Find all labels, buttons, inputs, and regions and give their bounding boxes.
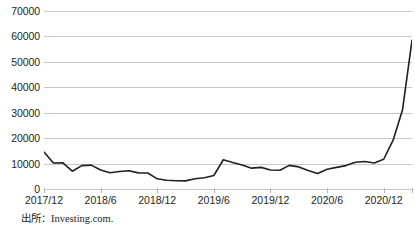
x-axis-end-tick (44, 188, 45, 193)
series-polyline (44, 40, 412, 181)
y-tick-label: 20000 (11, 133, 40, 144)
y-tick-label: 60000 (11, 31, 40, 42)
x-axis-ticks (44, 188, 412, 193)
y-tick-label: 50000 (11, 57, 40, 68)
plot-area (44, 11, 412, 189)
x-tick-label: 2018/12 (138, 194, 176, 207)
y-tick-label: 30000 (11, 107, 40, 118)
x-tick-label: 2019/6 (198, 194, 230, 207)
y-tick-label: 0 (34, 184, 40, 195)
x-tick-label: 2020/12 (365, 194, 403, 207)
x-tick (101, 188, 102, 193)
x-tick-label: 2019/12 (251, 194, 289, 207)
x-tick (384, 188, 385, 193)
x-tick (327, 188, 328, 193)
x-axis: 2017/122018/62018/122019/62019/122020/62… (0, 194, 415, 210)
x-tick-label: 2020/6 (311, 194, 343, 207)
line-series-bitcoin (44, 11, 412, 189)
source-note: 出所：Investing.com. (21, 213, 113, 226)
y-tick-label: 40000 (11, 82, 40, 93)
x-tick-label: 2018/6 (85, 194, 117, 207)
x-tick (214, 188, 215, 193)
x-tick (157, 188, 158, 193)
chart-container: 700006000050000400003000020000100000 201… (0, 0, 415, 232)
y-tick-label: 70000 (11, 6, 40, 17)
x-tick-label: 2017/12 (25, 194, 63, 207)
x-tick (270, 188, 271, 193)
y-tick-label: 10000 (11, 158, 40, 169)
x-axis-end-tick (412, 188, 413, 193)
